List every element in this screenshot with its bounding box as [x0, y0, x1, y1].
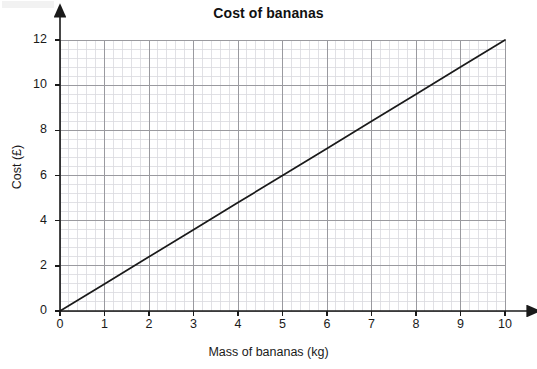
x-tick-label: 3 [181, 317, 207, 331]
plot-area [0, 0, 537, 369]
x-tick-label: 4 [225, 317, 251, 331]
x-tick-label: 5 [270, 317, 296, 331]
x-axis-label: Mass of bananas (kg) [0, 345, 537, 359]
x-tick-label: 0 [47, 317, 73, 331]
y-tick-label: 12 [21, 32, 47, 46]
x-tick-label: 6 [314, 317, 340, 331]
x-tick-label: 1 [92, 317, 118, 331]
x-tick-label: 10 [492, 317, 518, 331]
y-tick-label: 0 [21, 303, 47, 317]
y-tick-label: 10 [21, 77, 47, 91]
y-tick-label: 8 [21, 122, 47, 136]
x-tick-label: 7 [359, 317, 385, 331]
x-tick-label: 8 [403, 317, 429, 331]
y-tick-label: 6 [21, 168, 47, 182]
y-tick-label: 2 [21, 258, 47, 272]
x-tick-label: 9 [448, 317, 474, 331]
y-axis-label: Cost (£) [10, 112, 24, 222]
y-tick-label: 4 [21, 213, 47, 227]
chart-container: Cost of bananas 012345678910 024681012 M… [0, 0, 537, 369]
x-tick-label: 2 [136, 317, 162, 331]
